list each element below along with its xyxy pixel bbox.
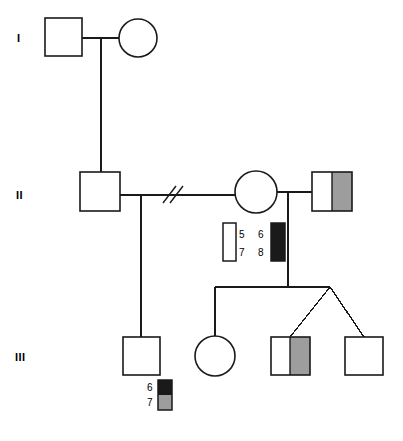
individual-II-2-female-circle[interactable] bbox=[235, 171, 277, 213]
allele-label-7: 7 bbox=[239, 248, 245, 258]
allele-label-7-gen3: 7 bbox=[147, 398, 153, 408]
individual-II-3-male-square-half-shaded[interactable] bbox=[312, 172, 352, 211]
individual-III-3-male-square-half-shaded[interactable] bbox=[271, 337, 310, 375]
individual-III-1-male-square[interactable] bbox=[123, 337, 160, 375]
haplotype-segment-black bbox=[158, 380, 172, 395]
haplotype-bar-II-2-left bbox=[223, 223, 236, 261]
individual-II-3-affected-half bbox=[332, 172, 352, 211]
haplotype-bar-II-2-right bbox=[271, 223, 285, 261]
generation-label-2: II bbox=[16, 190, 23, 201]
individual-II-1-male-square[interactable] bbox=[80, 172, 120, 211]
individual-I-2-female-circle[interactable] bbox=[119, 19, 157, 57]
twin-line-to-III4 bbox=[330, 287, 364, 337]
allele-label-6-gen3: 6 bbox=[147, 383, 153, 393]
generation-label-3: III bbox=[15, 352, 26, 363]
allele-label-8: 8 bbox=[258, 248, 264, 258]
twin-line-to-III3 bbox=[290, 287, 330, 337]
generation-label-1: I bbox=[17, 33, 21, 44]
haplotype-segment-gray bbox=[158, 395, 172, 410]
pedigree-drawing-canvas bbox=[0, 0, 403, 441]
individual-III-3-affected-half bbox=[290, 337, 310, 375]
allele-label-6: 6 bbox=[258, 230, 264, 240]
individual-III-4-male-square[interactable] bbox=[345, 337, 383, 375]
individual-I-1-male-square[interactable] bbox=[45, 18, 82, 56]
haplotype-bar-III-1 bbox=[158, 380, 172, 410]
pedigree-chart: I II III 5 6 7 8 6 7 bbox=[0, 0, 403, 441]
individual-III-2-female-circle[interactable] bbox=[195, 336, 235, 376]
allele-label-5: 5 bbox=[239, 230, 245, 240]
